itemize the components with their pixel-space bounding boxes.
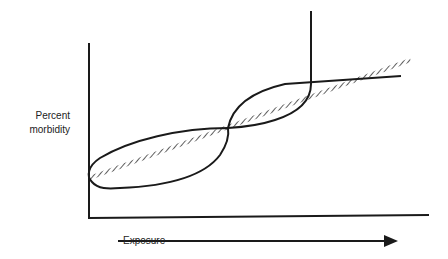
y-axis-label-line1: Percent xyxy=(20,109,70,123)
y-axis-label: Percent morbidity xyxy=(20,109,70,137)
x-axis-label: Exposure xyxy=(123,235,165,246)
lower-loop-curve xyxy=(89,128,229,188)
linear-trend-line xyxy=(89,58,411,180)
upper-loop-curve xyxy=(228,76,401,128)
x-axis xyxy=(89,215,429,218)
y-axis-label-line2: morbidity xyxy=(20,123,70,137)
